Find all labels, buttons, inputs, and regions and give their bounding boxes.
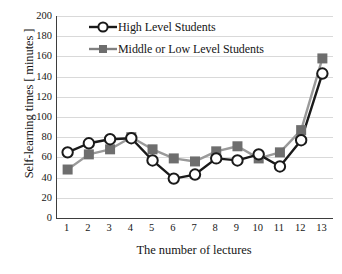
data-point-circle	[275, 161, 285, 171]
x-axis-tick-label: 8	[213, 222, 218, 234]
data-point-circle	[62, 147, 72, 157]
data-point-circle	[253, 149, 263, 159]
y-axis-tick-label: 180	[36, 31, 52, 41]
x-axis-tick-label: 9	[234, 222, 239, 234]
y-axis-tick-label: 120	[36, 92, 52, 102]
y-axis-tick-label: 20	[42, 193, 53, 203]
data-point-circle	[211, 153, 221, 163]
data-point-circle	[84, 138, 94, 148]
x-axis-tick-label: 12	[295, 222, 306, 234]
legend-marker-open-circle-icon	[88, 20, 118, 34]
data-point-square	[296, 125, 306, 135]
legend-item-high-level-students: High Level Students	[88, 16, 320, 38]
data-point-square	[105, 144, 115, 154]
y-axis-tick-label: 40	[42, 173, 53, 183]
x-axis-tick-label: 11	[274, 222, 284, 234]
x-axis-tick-label: 4	[128, 222, 133, 234]
y-axis-tick-label: 160	[36, 51, 52, 61]
data-point-square	[84, 149, 94, 159]
data-point-circle	[232, 155, 242, 165]
chart-figure: Self-learning times [ minutes ] 02040608…	[0, 0, 342, 274]
legend-marker-filled-square-icon	[88, 42, 118, 56]
y-axis-tick-label: 100	[36, 112, 52, 122]
y-axis-tick-label: 0	[47, 213, 52, 223]
legend-item-middle-or-low-level-students: Middle or Low Level Students	[88, 38, 320, 60]
x-axis-tick-label: 1	[64, 222, 69, 234]
y-axis-tick-label: 80	[42, 132, 53, 142]
data-point-circle	[105, 134, 115, 144]
data-point-square	[63, 165, 73, 175]
y-axis-tick-label: 60	[42, 152, 53, 162]
data-point-square	[148, 144, 158, 154]
data-point-circle	[126, 133, 136, 143]
data-point-square	[275, 147, 285, 157]
x-axis-tick-labels: 12345678910111213	[56, 222, 332, 238]
legend-label-high-level-students: High Level Students	[118, 20, 216, 35]
data-point-circle	[169, 173, 179, 183]
data-point-circle	[317, 68, 327, 78]
x-axis-tick-label: 10	[252, 222, 263, 234]
y-axis-tick-label: 140	[36, 72, 52, 82]
data-point-circle	[147, 155, 157, 165]
data-point-circle	[190, 169, 200, 179]
y-axis-tick-label: 200	[36, 11, 52, 21]
x-axis-tick-label: 6	[170, 222, 175, 234]
x-axis-tick-label: 2	[85, 222, 90, 234]
x-axis-tick-label: 13	[316, 222, 327, 234]
x-axis-tick-label: 3	[106, 222, 111, 234]
data-point-circle	[296, 135, 306, 145]
data-point-square	[232, 141, 242, 151]
data-point-square	[190, 156, 200, 166]
x-axis-title: The number of lectures	[56, 243, 332, 258]
y-axis-tick-labels: 020406080100120140160180200	[24, 16, 52, 218]
legend-label-middle-or-low-level-students: Middle or Low Level Students	[118, 42, 264, 57]
x-axis-tick-label: 5	[149, 222, 154, 234]
data-point-square	[169, 153, 179, 163]
x-axis-tick-label: 7	[191, 222, 196, 234]
chart-legend: High Level Students Middle or Low Level …	[88, 16, 320, 60]
